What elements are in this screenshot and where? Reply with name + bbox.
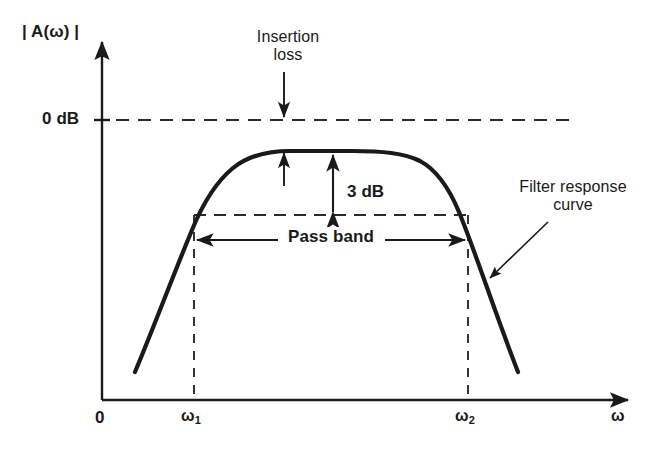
pass-band-label: Pass band	[283, 227, 379, 246]
filter-response-curve	[135, 151, 518, 372]
omega1-tick-label: ω1	[181, 407, 201, 426]
filter-response-curve-label-line1: Filter response	[498, 178, 648, 196]
filter-curve-leader-arrow	[490, 222, 548, 278]
axis-lines	[102, 42, 628, 400]
filter-response-curve-label-line2: curve	[498, 196, 648, 214]
three-db-label: 3 dB	[347, 182, 384, 201]
filter-response-curve-label: Filter response curve	[498, 178, 648, 214]
insertion-loss-label-line2: loss	[244, 46, 332, 64]
origin-label: 0	[95, 408, 105, 427]
omega1-tick-label-main: ω	[181, 407, 195, 424]
insertion-loss-label: Insertion loss	[244, 28, 332, 64]
zero-db-label: 0 dB	[42, 109, 79, 128]
y-axis-label: | A(ω) |	[22, 22, 79, 41]
omega2-tick-label-sub: 2	[469, 414, 475, 426]
omega1-tick-label-sub: 1	[195, 414, 201, 426]
filter-response-figure: | A(ω) | 0 dB Insertion loss 3 dB Pass b…	[0, 0, 653, 455]
x-axis-label: ω	[611, 407, 625, 425]
omega2-tick-label: ω2	[455, 407, 475, 426]
insertion-loss-label-line1: Insertion	[244, 28, 332, 46]
omega2-tick-label-main: ω	[455, 407, 469, 424]
